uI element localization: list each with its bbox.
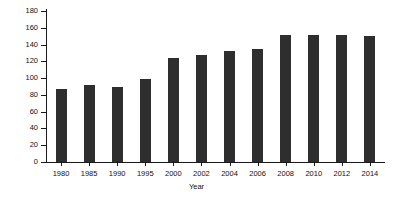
x-axis-tick-label: 2014 bbox=[362, 169, 379, 178]
x-axis-tick bbox=[201, 162, 202, 166]
x-axis-tick-label: 2010 bbox=[305, 169, 322, 178]
x-axis-tick-label: 1995 bbox=[137, 169, 154, 178]
bar bbox=[84, 85, 95, 162]
y-axis-tick-label: 120 bbox=[0, 56, 38, 65]
y-axis-tick-label: 40 bbox=[0, 123, 38, 132]
y-axis-tick-label: 160 bbox=[0, 23, 38, 32]
y-axis-tick-label: 180 bbox=[0, 6, 38, 15]
bar bbox=[252, 49, 263, 162]
x-axis-title: Year bbox=[0, 182, 393, 192]
bar bbox=[168, 58, 179, 162]
x-axis-tick-label: 2004 bbox=[221, 169, 238, 178]
x-axis-tick bbox=[117, 162, 118, 166]
bar bbox=[196, 55, 207, 162]
bar bbox=[364, 36, 375, 162]
bar bbox=[280, 35, 291, 163]
x-axis-tick bbox=[145, 162, 146, 166]
plot-area bbox=[47, 11, 384, 162]
y-axis-tick-label: 0 bbox=[0, 157, 38, 166]
y-axis-tick-label: 80 bbox=[0, 90, 38, 99]
x-axis-tick-label: 2012 bbox=[334, 169, 351, 178]
x-axis-tick bbox=[89, 162, 90, 166]
x-axis-tick bbox=[258, 162, 259, 166]
x-axis-tick bbox=[173, 162, 174, 166]
x-axis-tick bbox=[342, 162, 343, 166]
y-axis-tick-label: 140 bbox=[0, 40, 38, 49]
bar bbox=[224, 51, 235, 162]
x-axis-tick-label: 1990 bbox=[109, 169, 126, 178]
bar bbox=[112, 87, 123, 162]
x-axis-tick-label: 1985 bbox=[81, 169, 98, 178]
y-axis-tick-label: 100 bbox=[0, 73, 38, 82]
x-axis-tick bbox=[230, 162, 231, 166]
bar bbox=[56, 89, 67, 162]
y-axis-tick bbox=[41, 162, 47, 163]
y-axis-tick-label: 60 bbox=[0, 107, 38, 116]
x-axis-line bbox=[44, 162, 385, 163]
x-axis-tick-label: 2006 bbox=[249, 169, 266, 178]
x-axis-tick-label: 2002 bbox=[193, 169, 210, 178]
y-axis-tick-label: 20 bbox=[0, 140, 38, 149]
x-axis-tick bbox=[314, 162, 315, 166]
x-axis-tick-label: 1980 bbox=[53, 169, 70, 178]
bar-chart: 020406080100120140160180 198019851990199… bbox=[0, 0, 393, 197]
x-axis-tick bbox=[286, 162, 287, 166]
x-axis-tick-label: 2000 bbox=[165, 169, 182, 178]
bar bbox=[308, 35, 319, 163]
x-axis-tick bbox=[61, 162, 62, 166]
bar bbox=[336, 35, 347, 163]
x-axis-tick-label: 2008 bbox=[277, 169, 294, 178]
x-axis-tick bbox=[370, 162, 371, 166]
bar bbox=[140, 79, 151, 162]
